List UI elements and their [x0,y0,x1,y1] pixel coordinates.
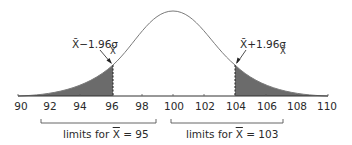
tick-label: 92 [43,100,56,112]
x-tick-labels: 90 92 94 96 98 100 102 104 106 108 110 [14,100,337,112]
left-tail-shading [18,65,113,96]
right-tail-shading [235,65,328,96]
left-limits-label: limits for X = 95 [63,128,149,140]
xbar-symbol: X [113,128,120,140]
tick-label: 110 [317,100,337,112]
normal-distribution-diagram: 90 92 94 96 98 100 102 104 106 108 110 X… [0,0,352,145]
tick-label: 96 [105,100,119,112]
tick-label: 104 [226,100,246,112]
lower-limit-annotation-subscript: X̄ [110,45,116,56]
tick-label: 106 [257,100,277,112]
right-limits-bracket [171,119,283,123]
tick-label: 100 [164,100,184,112]
tick-label: 94 [73,100,87,112]
right-limits-suffix: = 103 [243,128,279,140]
right-limits-label: limits for X = 103 [186,128,278,140]
left-limits-bracket [41,119,156,123]
right-limits-prefix: limits for [186,128,236,140]
xbar-symbol: X [236,128,243,140]
tick-label: 90 [14,100,27,112]
left-limits-prefix: limits for [63,128,113,140]
left-limits-suffix: = 95 [120,128,149,140]
tick-label: 108 [287,100,307,112]
upper-limit-annotation-subscript: X̄ [280,45,286,56]
tick-label: 102 [195,100,215,112]
tick-label: 98 [135,100,148,112]
